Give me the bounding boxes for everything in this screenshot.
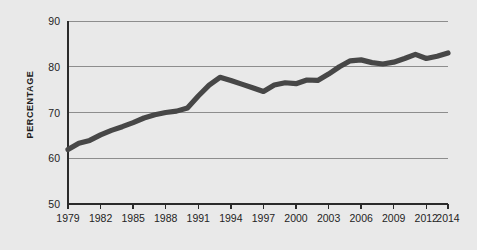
x-tick-label-1994: 1994 bbox=[219, 212, 243, 224]
chart-container: 5060708090 19791982198519881991199419972… bbox=[0, 0, 477, 250]
x-tick-label-1985: 1985 bbox=[121, 212, 145, 224]
y-tick-label-80: 80 bbox=[48, 61, 60, 73]
data-series-group bbox=[68, 53, 448, 150]
y-tick-label-70: 70 bbox=[48, 107, 60, 119]
y-tick-label-60: 60 bbox=[48, 152, 60, 164]
x-tick-label-1997: 1997 bbox=[252, 212, 276, 224]
x-tick-label-2000: 2000 bbox=[284, 212, 308, 224]
y-axis-title-group: PERCENTAGE bbox=[25, 71, 35, 139]
x-tick-label-2012: 2012 bbox=[415, 212, 439, 224]
x-tick-label-2003: 2003 bbox=[317, 212, 341, 224]
x-tick-label-1982: 1982 bbox=[89, 212, 113, 224]
x-tick-label-2014: 2014 bbox=[436, 212, 460, 224]
y-tick-label-90: 90 bbox=[48, 15, 60, 27]
y-axis-title: PERCENTAGE bbox=[25, 71, 35, 139]
x-tick-label-1991: 1991 bbox=[187, 212, 211, 224]
x-tick-label-2006: 2006 bbox=[349, 212, 373, 224]
x-tick-labels-group: 1979198219851988199119941997200020032006… bbox=[56, 212, 460, 224]
y-tick-labels-group: 5060708090 bbox=[48, 15, 60, 210]
x-tick-label-1988: 1988 bbox=[154, 212, 178, 224]
x-tick-label-2009: 2009 bbox=[382, 212, 406, 224]
y-tick-label-50: 50 bbox=[48, 198, 60, 210]
x-tick-label-1979: 1979 bbox=[56, 212, 80, 224]
line-chart: 5060708090 19791982198519881991199419972… bbox=[0, 0, 477, 250]
data-line-percentage bbox=[68, 53, 448, 150]
